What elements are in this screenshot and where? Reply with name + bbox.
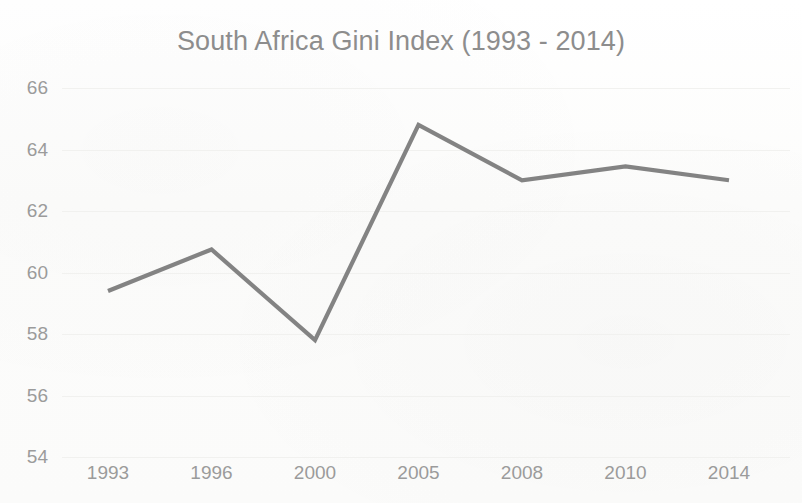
series-layer bbox=[0, 0, 802, 503]
line-chart: South Africa Gini Index (1993 - 2014) 54… bbox=[0, 0, 802, 503]
gini-index-line-series bbox=[108, 125, 729, 340]
